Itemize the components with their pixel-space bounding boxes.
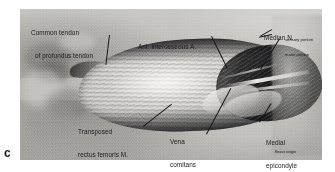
figure-panel: Common tendon of profundus tendon Ant. i… — [0, 0, 335, 172]
panel-letter: c — [4, 146, 11, 160]
label-transposed-rectus-femoris-line2: rectus femoris M. — [78, 151, 128, 159]
label-transposed-rectus-femoris-line1: Transposed — [78, 128, 128, 136]
label-medial-epicondyle-subparts: flexor origin — [275, 140, 296, 165]
label-common-tendon: Common tendon of profundus tendon — [31, 14, 93, 75]
label-flexor-origin: flexor origin — [275, 150, 296, 155]
label-common-tendon-line2: of profundus tendon — [31, 52, 93, 60]
label-vena-comitans-line2: comitans — [170, 161, 196, 169]
label-median-nerve-subparts: sensory portion motor portion — [285, 28, 313, 67]
label-transposed-rectus-femoris: Transposed rectus femoris M. — [78, 113, 128, 172]
label-vena-comitans: Vena comitans — [170, 123, 196, 172]
label-ant-interosseous-artery-line1: Ant. interosseous A. — [138, 43, 196, 51]
label-median-nerve-sensory: sensory portion — [285, 38, 313, 43]
label-vena-comitans-line1: Vena — [170, 138, 196, 146]
label-ant-interosseous-artery: Ant. interosseous A. — [138, 28, 196, 66]
label-common-tendon-line1: Common tendon — [31, 29, 93, 37]
label-median-nerve-motor: motor portion — [285, 53, 313, 58]
